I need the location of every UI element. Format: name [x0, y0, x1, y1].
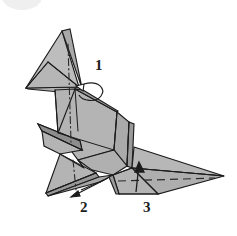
scan-artifact-circle [2, 0, 42, 10]
step-label-3: 3 [143, 200, 151, 215]
diagram-page: 1 2 3 [0, 0, 237, 236]
step-label-2: 2 [80, 200, 88, 215]
origami-figure [0, 0, 237, 236]
step-label-1: 1 [95, 58, 103, 73]
